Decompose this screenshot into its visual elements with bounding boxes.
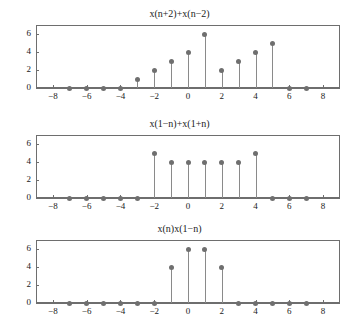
x-tick-label: −4 xyxy=(110,91,130,101)
x-tick-label: −4 xyxy=(110,306,130,316)
stem-line xyxy=(188,162,189,198)
y-tick-label: 0 xyxy=(17,192,31,202)
x-tick-label: 0 xyxy=(178,201,198,211)
x-tick-label: 6 xyxy=(279,91,299,101)
stem-marker xyxy=(152,68,157,73)
zero-baseline xyxy=(36,88,340,89)
y-tick xyxy=(36,198,39,199)
stem-line xyxy=(171,267,172,303)
x-tick-label: 2 xyxy=(212,306,232,316)
stem-line xyxy=(222,162,223,198)
y-tick-label: 4 xyxy=(17,46,31,56)
y-tick xyxy=(36,70,39,71)
stem-marker xyxy=(186,247,191,252)
stem-line xyxy=(222,267,223,303)
stem-marker xyxy=(202,160,207,165)
stem-line xyxy=(188,52,189,88)
x-tick-label: −6 xyxy=(77,91,97,101)
x-tick-label: −6 xyxy=(77,306,97,316)
y-tick xyxy=(36,303,39,304)
x-tick-label: −2 xyxy=(144,306,164,316)
x-tick-label: 6 xyxy=(279,306,299,316)
x-tick-label: 4 xyxy=(246,201,266,211)
stem-line xyxy=(171,61,172,88)
y-tick xyxy=(36,34,39,35)
stem-marker xyxy=(287,86,292,91)
stem-marker xyxy=(118,196,123,201)
stem-marker xyxy=(118,86,123,91)
stem-line xyxy=(154,153,155,198)
stem-marker xyxy=(101,86,106,91)
x-tick-label: −2 xyxy=(144,91,164,101)
y-tick-label: 2 xyxy=(17,279,31,289)
stem-marker xyxy=(253,151,258,156)
panel-2-plot-area: −8−6−4−2024680246 xyxy=(0,110,359,215)
x-tick-label: 0 xyxy=(178,91,198,101)
stem-marker xyxy=(236,59,241,64)
stem-line xyxy=(205,162,206,198)
x-tick xyxy=(323,195,324,198)
stem-marker xyxy=(202,32,207,37)
stem-marker xyxy=(202,247,207,252)
x-tick-label: 4 xyxy=(246,306,266,316)
stem-marker xyxy=(236,160,241,165)
y-tick-label: 6 xyxy=(17,243,31,253)
x-tick xyxy=(323,300,324,303)
panel-2: x(1−n)+x(1+n) −8−6−4−2024680246 xyxy=(0,110,359,215)
y-tick-label: 2 xyxy=(17,174,31,184)
y-tick-label: 4 xyxy=(17,261,31,271)
stem-plot-figure: x(n+2)+x(n−2) −8−6−4−2024680246 x(1−n)+x… xyxy=(0,0,359,328)
stem-line xyxy=(239,61,240,88)
stem-line xyxy=(256,153,257,198)
stem-marker xyxy=(67,86,72,91)
stem-marker xyxy=(169,265,174,270)
stem-marker xyxy=(287,301,292,306)
stem-marker xyxy=(287,196,292,201)
x-tick xyxy=(53,195,54,198)
x-tick-label: 0 xyxy=(178,306,198,316)
y-tick xyxy=(36,249,39,250)
x-tick-label: 2 xyxy=(212,201,232,211)
x-tick-label: −8 xyxy=(43,201,63,211)
y-tick xyxy=(36,180,39,181)
y-tick xyxy=(36,162,39,163)
panel-1: x(n+2)+x(n−2) −8−6−4−2024680246 xyxy=(0,0,359,110)
stem-line xyxy=(205,34,206,88)
stem-marker xyxy=(135,196,140,201)
stem-marker xyxy=(84,86,89,91)
panel-3-plot-area: −8−6−4−2024680246 xyxy=(0,215,359,328)
x-tick-label: −8 xyxy=(43,91,63,101)
panel-1-plot-area: −8−6−4−2024680246 xyxy=(0,0,359,110)
stem-line xyxy=(222,70,223,88)
stem-marker xyxy=(169,59,174,64)
x-tick-label: 2 xyxy=(212,91,232,101)
y-tick xyxy=(36,88,39,89)
stem-marker xyxy=(304,301,309,306)
stem-marker xyxy=(84,196,89,201)
y-tick-label: 2 xyxy=(17,64,31,74)
x-tick-label: 8 xyxy=(313,201,333,211)
stem-marker xyxy=(67,301,72,306)
stem-marker xyxy=(118,301,123,306)
stem-marker xyxy=(101,196,106,201)
stem-line xyxy=(171,162,172,198)
y-tick-label: 4 xyxy=(17,156,31,166)
y-tick xyxy=(36,52,39,53)
stem-line xyxy=(256,52,257,88)
stem-marker xyxy=(135,301,140,306)
y-tick xyxy=(36,267,39,268)
x-tick xyxy=(53,300,54,303)
stem-marker xyxy=(304,196,309,201)
zero-baseline xyxy=(36,198,340,199)
y-tick xyxy=(36,285,39,286)
stem-marker xyxy=(67,196,72,201)
x-tick-label: −2 xyxy=(144,201,164,211)
zero-baseline xyxy=(36,303,340,304)
stem-marker xyxy=(219,265,224,270)
y-tick xyxy=(36,144,39,145)
stem-line xyxy=(239,162,240,198)
stem-marker xyxy=(186,50,191,55)
x-tick-label: −8 xyxy=(43,306,63,316)
x-tick xyxy=(323,85,324,88)
x-tick-label: 8 xyxy=(313,91,333,101)
